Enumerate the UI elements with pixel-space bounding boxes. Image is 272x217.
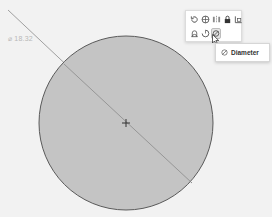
globe-button[interactable] (200, 14, 210, 25)
lock-icon (223, 15, 232, 24)
diameter-icon (221, 49, 228, 56)
rotate-button[interactable] (189, 14, 199, 25)
tooltip-label: Diameter (231, 49, 259, 56)
diameter-dimension-label[interactable]: ⌀ 18.32 (8, 35, 33, 43)
arc-button[interactable] (200, 28, 210, 39)
tooltip: Diameter (215, 43, 270, 62)
scale-icon (234, 15, 243, 24)
mirror-button[interactable] (211, 14, 221, 25)
rotate-icon (190, 15, 199, 24)
lock-button[interactable] (222, 14, 232, 25)
radius-button[interactable] (189, 28, 199, 39)
arc-icon (201, 29, 210, 38)
radius-icon (190, 29, 199, 38)
mirror-icon (212, 15, 221, 24)
scale-button[interactable] (233, 14, 243, 25)
globe-icon (201, 15, 210, 24)
